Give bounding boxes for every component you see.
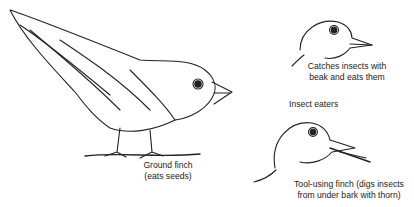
insect-catcher-label-line2: beak and eats them (292, 72, 402, 83)
tool-finch-label-line2: from under bark with thorn) (286, 190, 412, 201)
insect-catcher-label-line1: Catches insects with (292, 61, 402, 72)
tool-finch-label: Tool-using finch (digs insects from unde… (286, 179, 412, 200)
tool-finch-label-line1: Tool-using finch (digs insects (286, 179, 412, 190)
insect-catcher-label: Catches insects with beak and eats them (292, 61, 402, 82)
ground-finch-label-line1: Ground finch (118, 160, 218, 171)
ground-finch-label: Ground finch (eats seeds) (118, 160, 218, 181)
tool-finch-head-drawing (254, 123, 370, 182)
ground-finch-drawing (10, 10, 232, 158)
ground-finch-label-line2: (eats seeds) (118, 171, 218, 182)
insect-catcher-head-drawing (292, 21, 372, 66)
insect-eaters-group-label: Insect eaters (289, 99, 359, 110)
